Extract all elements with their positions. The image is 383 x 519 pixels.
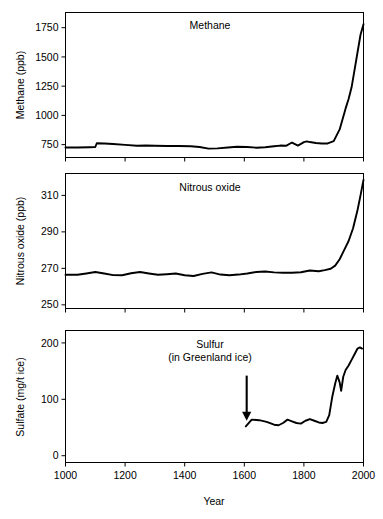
y-tick-label: 100	[41, 393, 59, 405]
arrow-head	[242, 412, 251, 421]
methane-data-line	[66, 24, 364, 148]
methane-plot-frame	[66, 13, 364, 158]
panel-methane: 7501000125015001750 Methane Methane (ppb…	[14, 13, 364, 162]
nitrous-oxide-data-line	[66, 180, 364, 276]
methane-y-axis-label: Methane (ppb)	[14, 51, 26, 119]
sulfate-y-axis-label: Sulfate (mg/t ice)	[14, 357, 26, 436]
sulfate-x-ticks: 100012001400160018002000	[54, 463, 376, 481]
x-tick-label: 2000	[352, 469, 376, 481]
y-tick-label: 290	[41, 225, 59, 237]
nitrous-oxide-plot-frame	[66, 174, 364, 309]
methane-x-ticks	[66, 158, 364, 162]
x-tick-label: 1000	[54, 469, 78, 481]
x-tick-label: 1200	[113, 469, 137, 481]
y-tick-label: 0	[53, 449, 59, 461]
y-tick-label: 1750	[35, 21, 59, 33]
x-tick-label: 1600	[233, 469, 257, 481]
sulfate-panel-subtitle: (in Greenland ice)	[168, 351, 251, 363]
sulfate-y-ticks: 0100200	[41, 337, 66, 462]
x-tick-label: 1800	[292, 469, 316, 481]
y-tick-label: 270	[41, 262, 59, 274]
y-tick-label: 750	[41, 138, 59, 150]
nitrous-oxide-y-ticks: 250270290310	[41, 189, 66, 310]
nitrous-oxide-y-axis-label: Nitrous oxide (ppb)	[14, 197, 26, 286]
y-tick-label: 1250	[35, 80, 59, 92]
x-axis-label: Year	[203, 495, 225, 507]
figure-container: 7501000125015001750 Methane Methane (ppb…	[0, 0, 383, 519]
panel-sulfate: 0100200 100012001400160018002000 Sulfur …	[14, 331, 375, 508]
nitrous-oxide-panel-title: Nitrous oxide	[179, 181, 240, 193]
methane-y-ticks: 7501000125015001750	[35, 21, 65, 150]
greenhouse-gas-trends-figure: 7501000125015001750 Methane Methane (ppb…	[0, 0, 383, 519]
x-tick-label: 1400	[173, 469, 197, 481]
sulfate-data-line	[246, 347, 362, 426]
methane-panel-title: Methane	[190, 19, 231, 31]
sulfate-onset-arrow-annotation	[242, 376, 251, 421]
panel-nitrous-oxide: 250270290310 Nitrous oxide Nitrous oxide…	[14, 174, 364, 313]
y-tick-label: 310	[41, 189, 59, 201]
y-tick-label: 1000	[35, 109, 59, 121]
y-tick-label: 250	[41, 298, 59, 310]
nitrous-oxide-x-ticks	[66, 309, 364, 313]
y-tick-label: 200	[41, 337, 59, 349]
y-tick-label: 1500	[35, 51, 59, 63]
sulfate-panel-title: Sulfur	[196, 338, 224, 350]
